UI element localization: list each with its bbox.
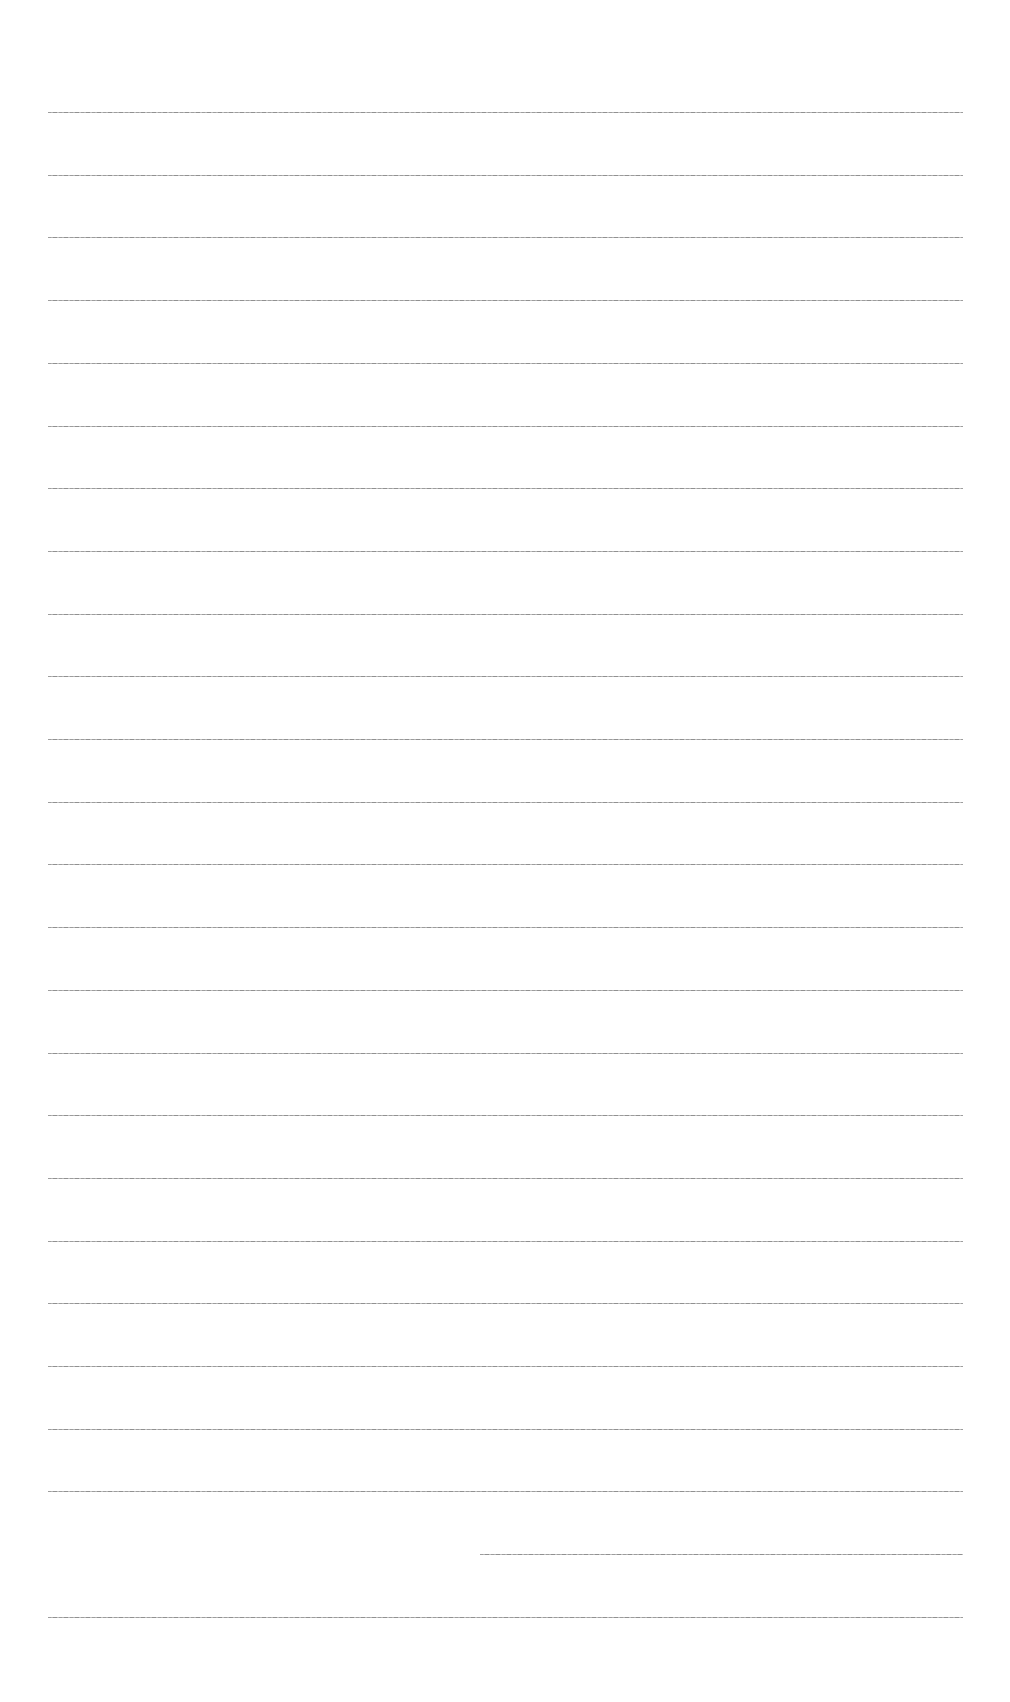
ruled-line: [48, 1241, 963, 1242]
ruled-line: [48, 363, 963, 364]
ruled-line: [48, 300, 963, 301]
ruled-line: [48, 551, 963, 552]
ruled-line: [48, 614, 963, 615]
ruled-line: [48, 1491, 963, 1492]
ruled-line: [48, 739, 963, 740]
ruled-line: [48, 1617, 963, 1618]
ruled-line: [48, 1429, 963, 1430]
ruled-line: [48, 864, 963, 865]
ruled-line: [48, 927, 963, 928]
ruled-line: [48, 676, 963, 677]
ruled-line: [48, 237, 963, 238]
ruled-line: [48, 426, 963, 427]
ruled-line: [48, 175, 963, 176]
ruled-line: [48, 802, 963, 803]
ruled-line: [48, 1366, 963, 1367]
ruled-line: [48, 1115, 963, 1116]
ruled-line: [48, 1303, 963, 1304]
ruled-line: [48, 112, 963, 113]
ruled-line: [48, 1053, 963, 1054]
ruled-page: [0, 0, 1010, 1702]
ruled-line: [480, 1554, 963, 1555]
ruled-line: [48, 1178, 963, 1179]
ruled-line: [48, 990, 963, 991]
ruled-line: [48, 488, 963, 489]
